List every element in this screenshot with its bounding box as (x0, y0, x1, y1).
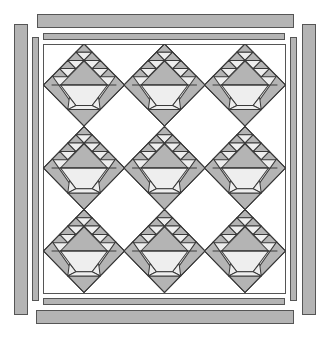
quilt-center (43, 44, 286, 294)
outer-border-left (14, 24, 28, 315)
inner-border-left (32, 37, 39, 301)
outer-border-right (302, 24, 316, 315)
outer-border-bottom (36, 310, 294, 324)
outer-border-top (37, 14, 294, 28)
inner-border-top (43, 33, 285, 40)
inner-border-right (290, 37, 297, 301)
inner-border-bottom (43, 298, 285, 305)
